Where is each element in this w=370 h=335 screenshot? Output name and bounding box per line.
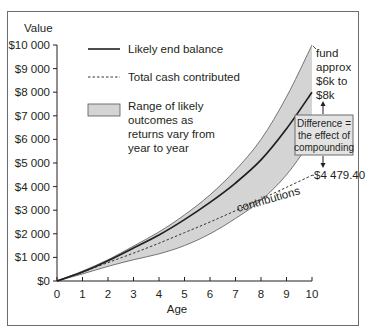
- legend-label-range-1: Range of likely: [128, 100, 204, 112]
- arrow-up-icon: [321, 101, 326, 106]
- compound-growth-chart: $0$1 000$2 000$3 000$4 000$5 000$6 000$7…: [0, 0, 370, 335]
- y-tick-label: $1 000: [15, 251, 50, 263]
- legend-label-likely-end-balance: Likely end balance: [128, 43, 223, 55]
- y-tick-label: $9 000: [15, 63, 50, 75]
- legend-label-total-cash: Total cash contributed: [128, 71, 240, 83]
- x-tick-label: 2: [105, 288, 111, 300]
- legend-label-range-3: returns vary from: [128, 128, 215, 140]
- y-tick-label: $3 000: [15, 204, 50, 216]
- y-tick-label: $6 000: [15, 133, 50, 145]
- arrow-down-icon: [321, 163, 326, 168]
- legend-gray-box-swatch: [88, 104, 120, 116]
- y-tick-label: $4 000: [15, 181, 50, 193]
- legend: Likely end balance Total cash contribute…: [88, 43, 240, 154]
- y-tick-label: $8 000: [15, 86, 50, 98]
- fund-note-line-4: $8k: [316, 89, 335, 101]
- legend-label-range-2: outcomes as: [128, 114, 193, 126]
- y-tick-label: $2 000: [15, 228, 50, 240]
- fund-note-line-3: $6k to: [316, 75, 347, 87]
- difference-line-2: the effect of: [298, 130, 350, 141]
- x-axis-title: Age: [167, 303, 187, 315]
- x-tick-label: 4: [156, 288, 163, 300]
- x-tick-label: 5: [181, 288, 187, 300]
- x-tick-label: 0: [54, 288, 60, 300]
- x-tick-label: 7: [232, 288, 238, 300]
- y-tick-label: $0: [37, 275, 50, 287]
- end-contribution-value: $4 479.40: [314, 169, 365, 181]
- difference-line-1: Difference =: [297, 118, 351, 129]
- y-tick-label: $5 000: [15, 157, 50, 169]
- y-tick-label: $7 000: [15, 110, 50, 122]
- fund-note-line-2: approx: [316, 61, 351, 73]
- x-tick-label: 8: [258, 288, 264, 300]
- difference-line-3: compounding: [294, 142, 354, 153]
- x-tick-label: 9: [283, 288, 289, 300]
- fund-range-annotation: fund approx $6k to $8k: [316, 47, 351, 101]
- x-tick-label: 3: [130, 288, 136, 300]
- x-tick-label: 1: [79, 288, 85, 300]
- y-tick-label: $10 000: [8, 39, 50, 51]
- x-tick-label: 10: [306, 288, 319, 300]
- fund-note-line-1: fund: [316, 47, 338, 59]
- legend-label-range-4: year to year: [128, 142, 189, 154]
- x-tick-label: 6: [207, 288, 213, 300]
- y-axis-title: Value: [24, 22, 53, 34]
